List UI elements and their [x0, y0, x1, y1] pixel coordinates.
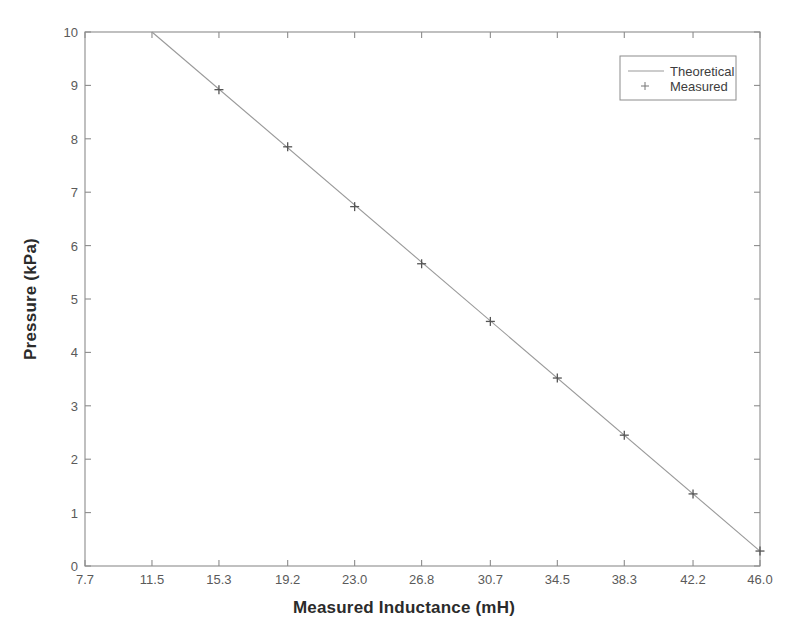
x-tick-label: 34.5 [545, 572, 570, 587]
x-tick-label: 38.3 [612, 572, 637, 587]
x-tick-label: 30.7 [478, 572, 503, 587]
x-axis-title: Measured Inductance (mH) [0, 598, 808, 618]
x-tick-label: 11.5 [140, 572, 164, 587]
chart-figure: Theoretical Measured 7.711.515.319.223.0… [0, 0, 808, 644]
x-tick-label: 46.0 [747, 572, 772, 587]
x-tick-label: 42.2 [680, 572, 705, 587]
plot-frame [85, 32, 760, 566]
x-tick-label: 15.3 [206, 572, 231, 587]
x-tick-label: 19.2 [275, 572, 300, 587]
x-tick-label: 7.7 [76, 572, 94, 587]
x-tick-label: 26.8 [409, 572, 434, 587]
legend-label-theoretical: Theoretical [670, 64, 734, 79]
x-tick-label: 23.0 [342, 572, 367, 587]
y-axis-title-wrapper: Pressure (kPa) [0, 0, 70, 598]
legend-label-measured: Measured [670, 79, 728, 94]
plot-canvas [0, 0, 808, 644]
y-axis-title: Pressure (kPa) [21, 238, 41, 360]
